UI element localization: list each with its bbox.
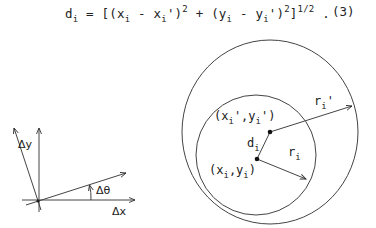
- delta-theta-label: Δθ: [96, 184, 110, 197]
- angle-arc: [90, 185, 92, 200]
- label-text: (x: [209, 163, 223, 177]
- radius-prime-arrow: [270, 106, 352, 132]
- label-text: (x: [214, 109, 228, 123]
- delta-x-label: Δx: [112, 205, 126, 218]
- distance-label: di: [247, 136, 260, 153]
- radius-arrow: [257, 159, 306, 179]
- label-sub: i: [295, 152, 300, 162]
- delta-y-label: Δy: [18, 138, 32, 151]
- point-prime-label: (xi',yi'): [214, 109, 275, 126]
- point-label: (xi,yi): [209, 163, 256, 180]
- circles-diagram: [182, 40, 358, 224]
- label-sub: i: [254, 143, 259, 153]
- radius-prime-label: ri': [314, 94, 334, 111]
- label-text: '): [261, 109, 275, 123]
- label-text: ): [249, 163, 256, 177]
- label-text: ': [327, 94, 334, 108]
- center-prime-dot: [268, 130, 273, 135]
- label-text: ,y: [229, 163, 243, 177]
- figure-drawing: [0, 0, 376, 228]
- label-text: ',y: [234, 109, 256, 123]
- center-dot: [255, 157, 260, 162]
- origin-dot: [36, 199, 39, 202]
- rotated-axes-diagram: [14, 128, 135, 212]
- radius-label: ri: [288, 145, 301, 162]
